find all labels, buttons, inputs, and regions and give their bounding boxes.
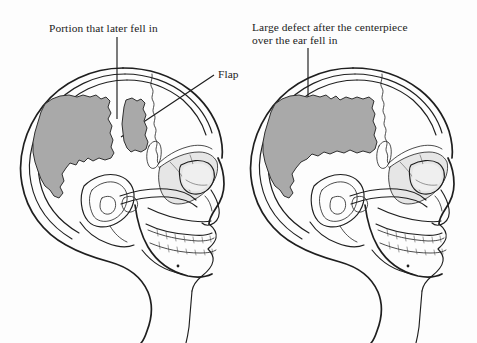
left-flap-defect <box>122 98 148 152</box>
figure-canvas: Portion that later fell in Flap Large de… <box>0 0 477 343</box>
skull-illustration: Portion that later fell in Flap Large de… <box>0 0 477 343</box>
flap-label-text: Flap <box>218 68 239 80</box>
left-mental-foramen <box>177 265 180 268</box>
right-label-line1: Large defect after the centerpiece <box>252 21 408 33</box>
right-mental-foramen <box>407 265 410 268</box>
right-label-line2: over the ear fell in <box>252 34 338 46</box>
left-label-text: Portion that later fell in <box>49 22 158 34</box>
